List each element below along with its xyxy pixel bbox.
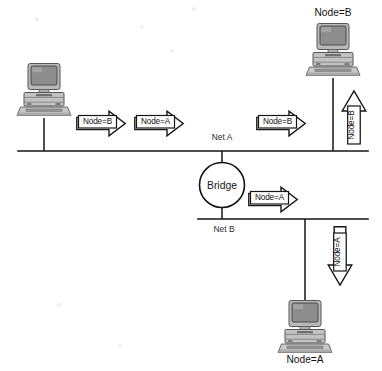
bridge-node[interactable]: Bridge (200, 151, 245, 219)
packet-net-a-node-b-1[interactable]: Node=B (77, 111, 125, 136)
packet-label: Node=A (333, 237, 342, 267)
net-a-label: Net A (212, 132, 233, 142)
packet-net-a-node-a[interactable]: Node=A (135, 111, 183, 136)
packet-label: Node=A (255, 193, 285, 202)
host-left[interactable] (17, 64, 71, 152)
host-node-a[interactable]: Node=A (278, 219, 332, 365)
packet-label: Node=A (141, 117, 171, 126)
packet-down-node-a[interactable]: Node=A (328, 227, 352, 285)
packet-label: Node=B (83, 117, 113, 126)
packet-label: Node=B (263, 117, 293, 126)
packet-up-node-b[interactable]: Node=B (342, 91, 366, 144)
packet-label: Node=B (347, 110, 356, 140)
packet-net-b-node-a[interactable]: Node=A (249, 187, 297, 212)
computer-icon[interactable] (17, 64, 71, 116)
net-b-label: Net B (214, 224, 235, 234)
segment-net-a: Net A (18, 132, 368, 151)
computer-icon[interactable] (306, 24, 360, 76)
host-node-a-label: Node=A (286, 354, 323, 365)
computer-icon[interactable] (278, 301, 332, 353)
diagram-canvas: Net A Net B Bridge Node=B (0, 0, 382, 371)
bridge-label: Bridge (207, 180, 237, 191)
network-diagram: Net A Net B Bridge Node=B (0, 0, 382, 371)
host-node-b-label: Node=B (314, 7, 351, 18)
scan-noise (35, 7, 196, 347)
packet-net-a-node-b-2[interactable]: Node=B (257, 111, 305, 136)
